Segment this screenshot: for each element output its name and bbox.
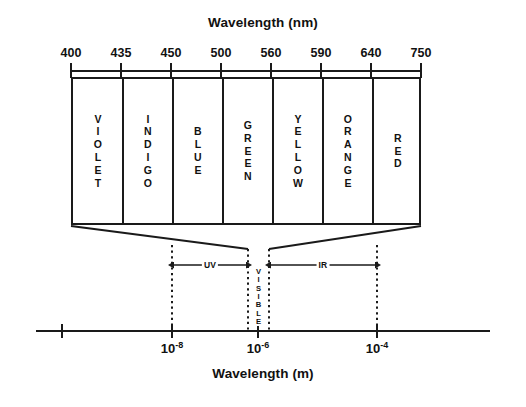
- region-label-ir: IR: [317, 260, 330, 270]
- top-axis-tick-750: [420, 63, 422, 78]
- top-axis-tick-label-400: 400: [61, 46, 82, 60]
- band-divider-1: [122, 79, 124, 223]
- bottom-axis-ticks: [62, 324, 377, 338]
- top-axis-tick-labels: 400435450500560590640750: [0, 46, 526, 62]
- top-axis-tick-label-590: 590: [311, 46, 332, 60]
- band-label-indigo: I N D I G O: [144, 113, 152, 190]
- band-label-yellow: Y E L L O W: [293, 113, 303, 190]
- top-axis-tick-640: [370, 63, 372, 78]
- spectrum-band-red: R E D: [373, 79, 423, 223]
- spectrum-band-violet: V I O L E T: [73, 79, 123, 223]
- top-axis-tick-560: [270, 63, 272, 78]
- band-divider-2: [172, 79, 174, 223]
- top-axis-tick-400: [70, 63, 72, 78]
- top-axis-tick-label-640: 640: [361, 46, 382, 60]
- top-axis-tick-450: [170, 63, 172, 78]
- top-axis-tick-label-435: 435: [111, 46, 132, 60]
- region-label-uv: UV: [202, 260, 218, 270]
- top-axis-tick-label-450: 450: [161, 46, 182, 60]
- spectrum-band-orange: O R A N G E: [323, 79, 373, 223]
- spectrum-figure: Wavelength (nm) 400435450500560590640750…: [0, 0, 526, 407]
- band-label-red: R E D: [394, 132, 402, 170]
- bottom-axis-label-1e-4: 10-4: [366, 341, 388, 356]
- dotted-leader-lines: [172, 245, 377, 331]
- band-label-orange: O R A N G E: [344, 113, 352, 190]
- band-divider-4: [272, 79, 274, 223]
- band-label-violet: V I O L E T: [94, 113, 102, 190]
- region-label-visible: V I S I B L E: [256, 268, 262, 326]
- top-axis-rule: [71, 70, 421, 72]
- bottom-axis-label-1e-6: 10-6: [247, 341, 269, 356]
- page-title-bottom: Wavelength (m): [0, 366, 526, 381]
- band-divider-6: [372, 79, 374, 223]
- top-axis-tick-500: [220, 63, 222, 78]
- visible-spectrum-box: V I O L E TI N D I G OB L U EG R E E NY …: [71, 77, 421, 225]
- band-label-blue: B L U E: [194, 125, 202, 176]
- band-divider-5: [322, 79, 324, 223]
- spectrum-band-yellow: Y E L L O W: [273, 79, 323, 223]
- band-label-green: G R E E N: [244, 119, 252, 183]
- page-title-top: Wavelength (nm): [0, 15, 526, 30]
- top-axis-tick-label-500: 500: [211, 46, 232, 60]
- top-axis-tick-435: [120, 63, 122, 78]
- top-axis-tick-label-560: 560: [261, 46, 282, 60]
- top-axis-tick-590: [320, 63, 322, 78]
- bottom-axis-label-1e-8: 10-8: [161, 341, 183, 356]
- spectrum-band-green: G R E E N: [223, 79, 273, 223]
- funnel-lines: [71, 226, 421, 249]
- spectrum-band-indigo: I N D I G O: [123, 79, 173, 223]
- top-axis-tick-label-750: 750: [411, 46, 432, 60]
- band-divider-3: [222, 79, 224, 223]
- spectrum-band-blue: B L U E: [173, 79, 223, 223]
